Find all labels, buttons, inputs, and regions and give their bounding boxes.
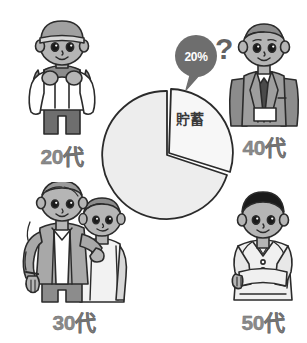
- age-label-40s: 40代: [224, 131, 304, 161]
- age-label-20s: 20代: [14, 140, 110, 170]
- callout-percent-label: 20%: [176, 50, 216, 64]
- illustration-canvas: 20代: [0, 0, 307, 343]
- figure-20s: [14, 12, 110, 138]
- question-mark-icon: ?: [215, 34, 233, 64]
- pie-slice-label-savings: 貯蓄: [176, 108, 204, 128]
- age-label-30s: 30代: [12, 306, 136, 336]
- age-label-50s: 50代: [222, 306, 304, 336]
- pie-chart: [99, 85, 235, 223]
